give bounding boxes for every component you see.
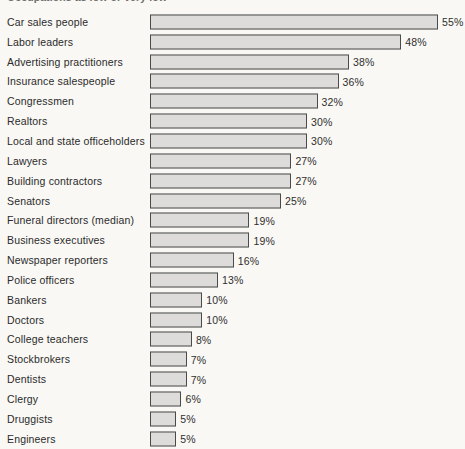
page-title: Occupations as low or very low bbox=[7, 0, 307, 3]
bar bbox=[150, 352, 187, 367]
bar-value-label: 48% bbox=[405, 36, 426, 48]
bar bbox=[150, 233, 249, 248]
bar-and-value: 19% bbox=[150, 213, 275, 228]
bar-and-value: 27% bbox=[150, 153, 317, 168]
bar bbox=[150, 114, 307, 129]
bar bbox=[150, 34, 401, 49]
bar-value-label: 55% bbox=[442, 16, 463, 28]
bar-value-label: 19% bbox=[253, 234, 274, 246]
bar bbox=[150, 312, 202, 327]
bar-and-value: 25% bbox=[150, 193, 306, 208]
bar-and-value: 16% bbox=[150, 253, 259, 268]
bar-row: Stockbrokers7% bbox=[0, 349, 465, 369]
bar-category-label: Realtors bbox=[7, 115, 47, 127]
bar-and-value: 6% bbox=[150, 391, 201, 406]
bar bbox=[150, 272, 218, 287]
bar-row: Engineers5% bbox=[0, 429, 465, 449]
bar bbox=[150, 411, 176, 426]
bar-value-label: 7% bbox=[191, 373, 206, 385]
bar-row: Funeral directors (median)19% bbox=[0, 210, 465, 230]
bar-value-label: 5% bbox=[180, 433, 195, 445]
bar bbox=[150, 54, 349, 69]
bar-value-label: 30% bbox=[311, 135, 332, 147]
bar-and-value: 10% bbox=[150, 312, 228, 327]
bar-category-label: Congressmen bbox=[7, 95, 74, 107]
bar-value-label: 30% bbox=[311, 115, 332, 127]
bar-category-label: Bankers bbox=[7, 294, 47, 306]
bar-value-label: 8% bbox=[196, 333, 211, 345]
bar-and-value: 38% bbox=[150, 54, 374, 69]
bar-category-label: Business executives bbox=[7, 234, 105, 246]
bar-and-value: 13% bbox=[150, 272, 244, 287]
bar-value-label: 25% bbox=[285, 195, 306, 207]
bar-row: Newspaper reporters16% bbox=[0, 250, 465, 270]
bar-category-label: College teachers bbox=[7, 333, 88, 345]
bar-row: Realtors30% bbox=[0, 111, 465, 131]
bar-row: Labor leaders48% bbox=[0, 32, 465, 52]
bar bbox=[150, 391, 181, 406]
bar-value-label: 16% bbox=[238, 254, 259, 266]
bar-category-label: Clergy bbox=[7, 393, 38, 405]
bar-rows-container: Car sales people55%Labor leaders48%Adver… bbox=[0, 12, 465, 449]
bar bbox=[150, 213, 249, 228]
bar-and-value: 36% bbox=[150, 74, 364, 89]
bar-value-label: 19% bbox=[253, 214, 274, 226]
bar bbox=[150, 94, 318, 109]
bar-and-value: 27% bbox=[150, 173, 317, 188]
bar-value-label: 32% bbox=[322, 95, 343, 107]
bar bbox=[150, 431, 176, 446]
bar-value-label: 7% bbox=[191, 353, 206, 365]
bar-and-value: 32% bbox=[150, 94, 343, 109]
bar-category-label: Local and state officeholders bbox=[7, 135, 145, 147]
bar-value-label: 5% bbox=[180, 413, 195, 425]
bar-row: Insurance salespeople36% bbox=[0, 72, 465, 92]
bar-value-label: 36% bbox=[343, 75, 364, 87]
bar-row: Police officers13% bbox=[0, 270, 465, 290]
bar-and-value: 19% bbox=[150, 233, 275, 248]
bar-row: Business executives19% bbox=[0, 230, 465, 250]
bar-row: Local and state officeholders30% bbox=[0, 131, 465, 151]
bar-value-label: 6% bbox=[185, 393, 200, 405]
bar-row: Druggists5% bbox=[0, 409, 465, 429]
bar bbox=[150, 14, 438, 29]
bar bbox=[150, 253, 234, 268]
bar-and-value: 5% bbox=[150, 411, 196, 426]
bar-category-label: Insurance salespeople bbox=[7, 75, 115, 87]
bar-category-label: Labor leaders bbox=[7, 36, 73, 48]
bar bbox=[150, 133, 307, 148]
bar bbox=[150, 74, 339, 89]
bar-value-label: 38% bbox=[353, 56, 374, 68]
bar-category-label: Newspaper reporters bbox=[7, 254, 108, 266]
bar bbox=[150, 292, 202, 307]
bar-row: Doctors10% bbox=[0, 310, 465, 330]
bar-and-value: 7% bbox=[150, 372, 206, 387]
bar-category-label: Lawyers bbox=[7, 155, 47, 167]
bar-and-value: 55% bbox=[150, 14, 463, 29]
bar-row: Car sales people55% bbox=[0, 12, 465, 32]
bar bbox=[150, 153, 291, 168]
bar-value-label: 27% bbox=[295, 155, 316, 167]
bar-row: Clergy6% bbox=[0, 389, 465, 409]
bar-and-value: 5% bbox=[150, 431, 196, 446]
bar-and-value: 30% bbox=[150, 133, 333, 148]
bar-value-label: 27% bbox=[295, 175, 316, 187]
bar-and-value: 30% bbox=[150, 114, 333, 129]
bar-category-label: Senators bbox=[7, 195, 50, 207]
bar bbox=[150, 173, 291, 188]
bar-category-label: Dentists bbox=[7, 373, 46, 385]
bar-row: Advertising practitioners38% bbox=[0, 52, 465, 72]
bar-category-label: Building contractors bbox=[7, 175, 102, 187]
bar-category-label: Druggists bbox=[7, 413, 53, 425]
bar-value-label: 13% bbox=[222, 274, 243, 286]
bar bbox=[150, 332, 192, 347]
bar-and-value: 8% bbox=[150, 332, 211, 347]
bar-row: Building contractors27% bbox=[0, 171, 465, 191]
bar-row: Bankers10% bbox=[0, 290, 465, 310]
bar-row: Lawyers27% bbox=[0, 151, 465, 171]
bar-category-label: Advertising practitioners bbox=[7, 56, 123, 68]
bar-category-label: Funeral directors (median) bbox=[7, 214, 134, 226]
bar bbox=[150, 372, 187, 387]
bar-value-label: 10% bbox=[206, 314, 227, 326]
bar-and-value: 48% bbox=[150, 34, 427, 49]
bar-value-label: 10% bbox=[206, 294, 227, 306]
